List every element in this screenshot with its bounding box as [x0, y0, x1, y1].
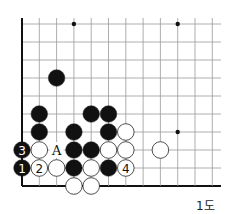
- white-stone: [118, 124, 135, 141]
- star-point-icon: [176, 22, 180, 26]
- black-stone: [100, 124, 117, 141]
- white-stone: [48, 160, 65, 177]
- white-stone: [100, 142, 117, 159]
- black-stone: [83, 142, 100, 159]
- diagram-caption: 1도: [196, 196, 215, 213]
- black-stone: [31, 106, 48, 123]
- black-stone: [66, 142, 83, 159]
- black-stone: [100, 106, 117, 123]
- white-stone: [83, 178, 100, 195]
- white-stone: [118, 142, 135, 159]
- move-number-label: 2: [35, 162, 43, 176]
- go-board-diagram: A 3124: [0, 0, 237, 214]
- point-label-marker: A: [51, 143, 62, 158]
- move-number-label: 4: [122, 162, 130, 176]
- black-stone: [66, 160, 83, 177]
- star-point-icon: [72, 22, 76, 26]
- board-markers: A: [50, 142, 64, 158]
- black-stone: [66, 124, 83, 141]
- white-stone: [31, 142, 48, 159]
- move-number-label: 1: [18, 162, 26, 176]
- white-stone: [66, 178, 83, 195]
- star-point-icon: [176, 130, 180, 134]
- black-stone: [83, 106, 100, 123]
- white-stone: [83, 160, 100, 177]
- white-stone: [152, 142, 169, 159]
- black-stone: [31, 124, 48, 141]
- move-number-label: 3: [18, 144, 26, 158]
- black-stone: [100, 160, 117, 177]
- black-stone: [48, 70, 65, 87]
